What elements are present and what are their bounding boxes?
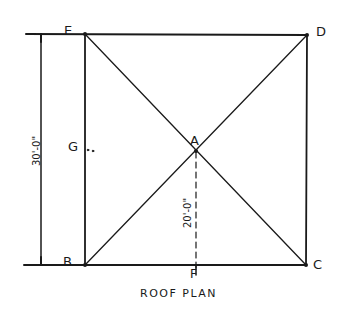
- label-b: B: [63, 255, 72, 268]
- point-e-dot: [83, 32, 87, 36]
- dimension-label-a-f: 20'-0": [183, 188, 193, 238]
- roof-plan-drawing: [0, 0, 342, 312]
- point-c-dot: [304, 263, 308, 267]
- drawing-title: ROOF PLAN: [140, 288, 217, 299]
- point-b-dot: [83, 263, 87, 267]
- label-d: D: [316, 25, 326, 38]
- point-d-dot: [305, 33, 309, 37]
- dimension-label-overall: 30'-0": [32, 126, 42, 176]
- point-g-marker-2: [92, 150, 94, 152]
- right-edge-d-c: [306, 35, 307, 265]
- point-a-dot: [194, 149, 198, 153]
- point-g-marker: [87, 149, 89, 151]
- label-a: A: [190, 134, 199, 147]
- label-c: C: [313, 258, 322, 271]
- label-f: F: [190, 268, 197, 280]
- label-e: E: [64, 24, 72, 37]
- label-g: G: [68, 140, 78, 153]
